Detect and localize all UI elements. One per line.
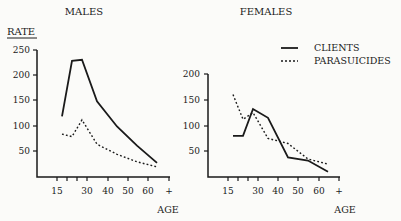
svg-text:150: 150 xyxy=(13,95,30,105)
svg-text:50: 50 xyxy=(292,186,304,196)
svg-text:100: 100 xyxy=(13,121,30,131)
svg-text:50: 50 xyxy=(122,186,134,196)
svg-text:150: 150 xyxy=(183,95,200,105)
chart-figure: MALES FEMALES RATE CLIENTS PARASUICIDES … xyxy=(0,0,401,221)
svg-text:40: 40 xyxy=(102,186,114,196)
males-clients-line xyxy=(62,60,157,163)
rate-label: RATE xyxy=(7,26,35,37)
males-x-axis-label: AGE xyxy=(156,204,178,215)
svg-text:50: 50 xyxy=(19,146,31,156)
females-x-axis-label: AGE xyxy=(333,204,355,215)
males-y-tick-labels: 250 200 150 100 50 xyxy=(13,45,30,156)
legend-parasuicides-label: PARASUICIDES xyxy=(314,55,391,66)
svg-text:30: 30 xyxy=(81,186,93,196)
legend: CLIENTS PARASUICIDES xyxy=(281,42,391,66)
svg-text:200: 200 xyxy=(183,69,200,79)
females-title: FEMALES xyxy=(240,6,293,17)
svg-text:+: + xyxy=(335,186,343,196)
legend-clients-label: CLIENTS xyxy=(314,42,359,53)
svg-text:40: 40 xyxy=(272,186,284,196)
females-parasuicides-line xyxy=(233,95,328,165)
svg-text:60: 60 xyxy=(142,186,154,196)
females-axes xyxy=(208,74,340,177)
females-clients-line xyxy=(233,109,328,172)
svg-text:200: 200 xyxy=(13,70,30,80)
svg-text:30: 30 xyxy=(252,186,264,196)
females-y-tick-labels: 200 150 100 50 xyxy=(183,69,200,156)
svg-text:15: 15 xyxy=(51,186,63,196)
svg-text:50: 50 xyxy=(189,146,201,156)
svg-text:+: + xyxy=(165,186,173,196)
females-chart: 200 150 100 50 15 30 40 50 60 + AGE xyxy=(183,69,356,215)
svg-text:250: 250 xyxy=(13,45,30,55)
males-parasuicides-line xyxy=(62,120,157,167)
svg-text:60: 60 xyxy=(313,186,325,196)
males-x-tick-labels: 15 30 40 50 60 + xyxy=(51,186,173,196)
svg-text:15: 15 xyxy=(222,186,234,196)
males-title: MALES xyxy=(65,6,103,17)
females-x-tick-labels: 15 30 40 50 60 + xyxy=(222,186,343,196)
males-chart: 250 200 150 100 50 15 30 40 50 60 + AGE xyxy=(13,45,179,215)
svg-text:100: 100 xyxy=(183,121,200,131)
